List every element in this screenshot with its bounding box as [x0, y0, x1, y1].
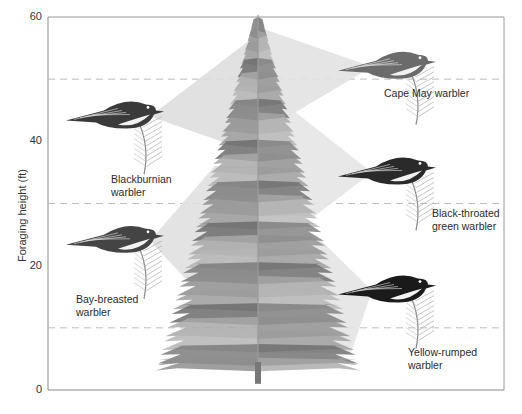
warbler-bird-icon: [66, 226, 164, 299]
y-tick-label: 60: [22, 10, 42, 22]
species-label: Blackburnian warbler: [111, 173, 172, 199]
y-tick-label: 20: [22, 259, 42, 271]
species-label: Cape May warbler: [384, 87, 469, 100]
y-tick-label: 40: [22, 134, 42, 146]
y-axis-label: Foraging height (ft): [16, 169, 28, 262]
foraging-diagram: Foraging height (ft) 0204060 Cape May wa…: [0, 0, 522, 414]
tree-trunk: [255, 362, 261, 384]
warbler-bird-icon: [66, 102, 164, 175]
y-tick-label: 0: [22, 383, 42, 395]
species-label: Bay-breasted warbler: [76, 293, 138, 319]
species-label: Black-throated green warbler: [432, 207, 500, 233]
species-label: Yellow-rumped warbler: [408, 346, 477, 372]
